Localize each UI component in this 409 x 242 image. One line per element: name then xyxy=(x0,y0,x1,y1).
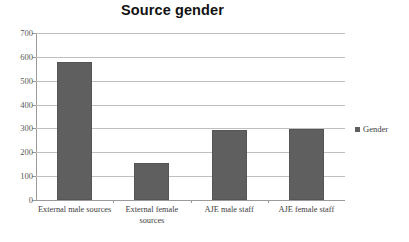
y-axis-tick-label: 700 xyxy=(3,28,33,38)
bar xyxy=(134,163,169,200)
y-axis-tick-label: 400 xyxy=(3,100,33,110)
bar xyxy=(57,62,92,200)
x-tick-mark xyxy=(191,200,192,203)
chart-legend: Gender xyxy=(355,124,388,134)
legend-color-swatch xyxy=(355,127,360,132)
bar xyxy=(212,130,247,200)
y-axis-tick-label: 600 xyxy=(3,52,33,62)
x-axis-label: AJE female staff xyxy=(268,204,345,215)
y-axis-tick-label: 0 xyxy=(3,195,33,205)
bar xyxy=(289,129,324,200)
y-axis-tick-group: 0100200300400500600700 xyxy=(0,33,33,200)
chart-title: Source gender xyxy=(0,2,345,18)
gridline-600 xyxy=(36,57,345,58)
y-axis-tick-label: 300 xyxy=(3,123,33,133)
bar-chart: Source gender 0100200300400500600700 Ext… xyxy=(0,0,409,242)
plot-area xyxy=(36,33,345,200)
legend-item-gender: Gender xyxy=(363,124,388,134)
y-axis-tick-label: 100 xyxy=(3,171,33,181)
x-tick-mark xyxy=(268,200,269,203)
x-axis-label: External male sources xyxy=(36,204,113,215)
x-axis-label-group: External male sourcesExternal female sou… xyxy=(36,203,345,237)
x-axis-label: External female sources xyxy=(113,204,190,226)
y-axis-tick-label: 200 xyxy=(3,147,33,157)
y-axis-tick-label: 500 xyxy=(3,76,33,86)
x-axis-label: AJE male staff xyxy=(191,204,268,215)
gridline-700 xyxy=(36,33,345,34)
x-tick-mark xyxy=(113,200,114,203)
